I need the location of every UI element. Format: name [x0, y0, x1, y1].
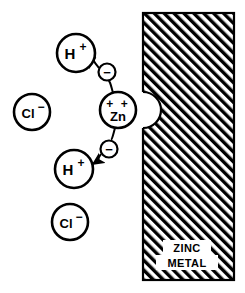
chloride-upper-symbol: Cl [22, 106, 35, 121]
chloride-lower-symbol: Cl [60, 216, 73, 231]
particle-chloride-upper[interactable]: Cl − [14, 94, 50, 130]
particle-electron-lower[interactable]: − [101, 141, 118, 158]
h-plus-lower-charge: + [77, 156, 84, 170]
h-plus-lower-circle[interactable] [55, 150, 93, 188]
zinc-ion-symbol: Zn [110, 109, 126, 124]
particle-h-plus-upper[interactable]: H + [57, 34, 95, 72]
chloride-upper-charge: − [37, 100, 44, 114]
path-zinc-to-electron-lower [111, 128, 115, 140]
metal-label-line1: ZINC [173, 242, 200, 254]
arrow-electron-to-h-lower[interactable] [93, 154, 101, 164]
chloride-lower-charge: − [75, 210, 82, 224]
metal-label-line2: METAL [167, 257, 206, 269]
zinc-corrosion-figure: ZINC METAL H + − + + Zn [0, 0, 245, 293]
particle-electron-upper[interactable]: − [99, 64, 116, 81]
h-plus-lower-symbol: H [63, 161, 74, 178]
zinc-metal-block [143, 13, 234, 280]
diagram-canvas: ZINC METAL H + − + + Zn [0, 0, 245, 293]
h-plus-upper-charge: + [79, 40, 86, 54]
h-plus-upper-symbol: H [65, 45, 76, 62]
path-zinc-to-electron-upper [108, 81, 113, 93]
particle-chloride-lower[interactable]: Cl − [52, 204, 88, 240]
electron-upper-symbol: − [103, 65, 111, 80]
particle-h-plus-lower[interactable]: H + [55, 150, 93, 188]
electron-lower-symbol: − [105, 142, 113, 157]
h-plus-upper-circle[interactable] [57, 34, 95, 72]
particle-zinc-ion[interactable]: + + Zn [100, 92, 136, 128]
metal-hatch-fill [143, 13, 234, 280]
